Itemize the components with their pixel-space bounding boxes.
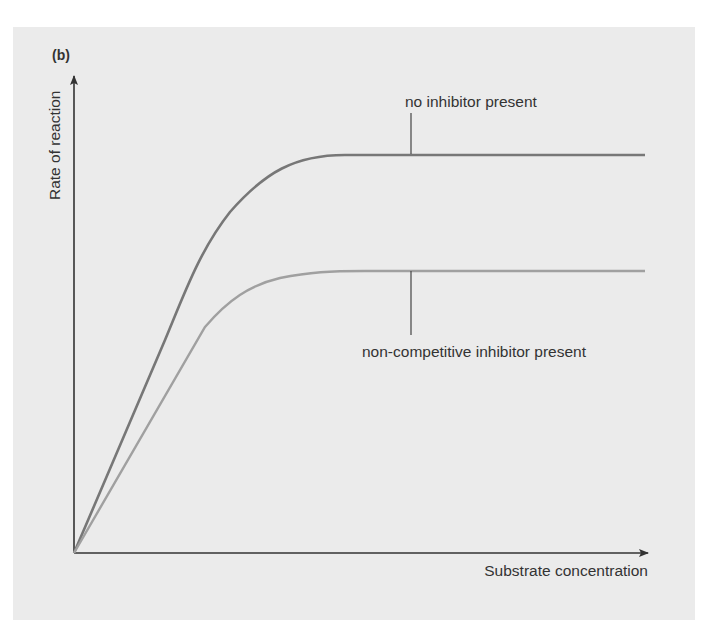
enzyme-inhibition-chart: (b) Rate of reaction Substrate concentra… — [0, 0, 718, 626]
non-competitive-annotation: non-competitive inhibitor present — [362, 343, 587, 360]
no-inhibitor-annotation: no inhibitor present — [405, 93, 538, 110]
x-axis-label: Substrate concentration — [484, 562, 648, 579]
panel-label: (b) — [52, 47, 70, 63]
y-axis-label: Rate of reaction — [46, 91, 63, 200]
non-competitive-curve — [74, 271, 645, 553]
